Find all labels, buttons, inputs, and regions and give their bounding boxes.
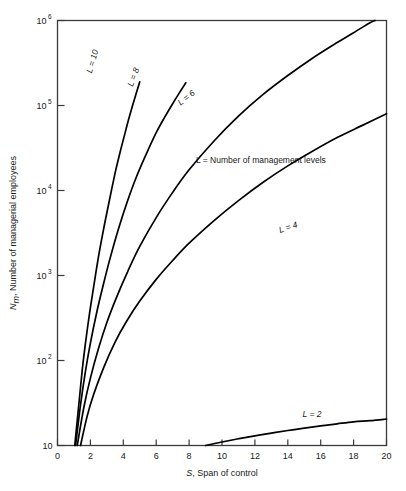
curve-label-6: L = 6: [176, 88, 197, 108]
plot-frame: [58, 21, 387, 446]
x-axis-title: S, Span of control: [186, 468, 258, 478]
svg-text:20: 20: [381, 451, 391, 461]
svg-text:6: 6: [48, 13, 52, 20]
curve-labels: L = 10L = 8L = 6L = 4L = 2: [84, 48, 322, 419]
svg-text:10: 10: [36, 101, 46, 111]
chart-svg: 10102103104105106 02468101214161820 L = …: [0, 0, 406, 491]
svg-text:10: 10: [36, 16, 46, 26]
svg-text:6: 6: [154, 451, 159, 461]
svg-text:3: 3: [48, 268, 52, 275]
curve-label-4: L = 4: [277, 219, 298, 234]
svg-text:Nm, Number of managerial emplo: Nm, Number of managerial employees: [8, 155, 21, 310]
y-axis-label-text: , Number of managerial employees: [8, 155, 18, 296]
svg-text:14: 14: [283, 451, 293, 461]
svg-text:2: 2: [88, 451, 93, 461]
svg-text:4: 4: [121, 451, 126, 461]
curve-label-10: L = 10: [84, 48, 100, 74]
curve-label-2: L = 2: [303, 409, 322, 419]
svg-text:10: 10: [36, 271, 46, 281]
svg-text:8: 8: [187, 451, 192, 461]
axis-ticks: [58, 21, 387, 446]
y-axis-tick-labels: 10102103104105106: [36, 13, 52, 452]
y-axis-title: Nm, Number of managerial employees: [8, 155, 21, 310]
chart-annotation: L = Number of management levels: [196, 155, 326, 165]
svg-text:16: 16: [316, 451, 326, 461]
x-axis-label-text: , Span of control: [192, 468, 258, 478]
svg-text:5: 5: [48, 98, 52, 105]
curve-6: [77, 21, 375, 446]
curve-2: [206, 419, 387, 446]
data-curves: [75, 21, 387, 446]
svg-text:18: 18: [349, 451, 359, 461]
svg-text:4: 4: [48, 183, 52, 190]
curve-10: [75, 82, 140, 446]
svg-text:10: 10: [36, 356, 46, 366]
svg-text:12: 12: [250, 451, 260, 461]
svg-text:0: 0: [55, 451, 60, 461]
chart-figure: 10102103104105106 02468101214161820 L = …: [0, 0, 406, 491]
svg-text:10: 10: [36, 186, 46, 196]
x-axis-tick-labels: 02468101214161820: [55, 451, 392, 461]
svg-text:S, Span of control: S, Span of control: [186, 468, 258, 478]
svg-text:10: 10: [217, 451, 227, 461]
svg-text:10: 10: [42, 441, 52, 451]
svg-text:2: 2: [48, 353, 52, 360]
